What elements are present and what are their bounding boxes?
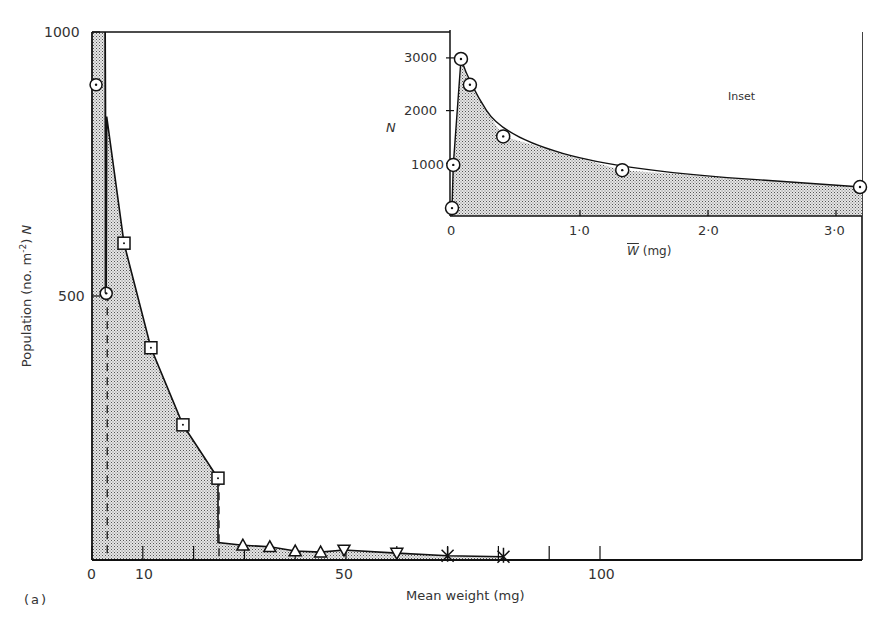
x-tick-label-100: 100 [588,566,615,582]
inset-x-axis-label: W (mg) [627,244,671,258]
inset-plot [446,30,867,216]
inset-title: Inset [728,90,755,103]
inset-y-tick-2000: 2000 [404,103,437,118]
inset-y-tick-1000: 1000 [411,157,444,172]
x-tick-label-0: 0 [87,566,96,582]
inset-x-tick-1: 1·0 [569,223,590,238]
inset-x-tick-0: 0 [447,223,455,238]
main-y-axis-label: Population (no. m-2) N [18,225,34,367]
inset-y-tick-3000: 3000 [404,50,437,65]
inset-x-tick-2: 2·0 [698,223,719,238]
main-area-fill [92,32,504,560]
y-tick-label-1000: 1000 [44,24,80,40]
panel-label: (a) [24,592,48,607]
x-tick-label-10: 10 [135,566,153,582]
inset-x-tick-3: 3·0 [824,223,845,238]
inset-y-axis-label: N [386,120,396,135]
y-tick-label-500: 500 [58,288,85,304]
main-x-axis-label: Mean weight (mg) [406,588,525,603]
x-tick-label-50: 50 [335,566,353,582]
